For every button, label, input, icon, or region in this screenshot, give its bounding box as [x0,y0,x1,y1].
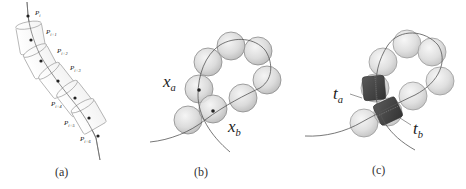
point-p-i3 [56,79,59,82]
point-p-i1 [29,38,32,41]
box-t-a [362,75,386,101]
point-x-b [211,109,215,113]
cylinder-chain-diagram [0,0,130,189]
panel-c-sphere-chain-boxes: ta tb (c) [300,0,466,189]
sphere-chain-diagram [150,0,300,189]
sphere [194,48,222,76]
sphere [217,32,245,60]
label-p-i: Pi [35,9,40,17]
sphere [229,84,257,112]
caption-b: (b) [194,165,208,180]
label-x-b: xb [228,117,241,137]
panel-b-sphere-chain: xa xb (b) [150,0,300,189]
caption-a: (a) [55,165,68,180]
point-p-i2 [39,59,42,62]
label-p-i4: Pi+4 [51,100,62,108]
label-p-i6: Pi+6 [80,135,91,143]
point-p-i6 [96,134,99,137]
label-p-i2: Pi+2 [57,47,68,55]
leader-t-a [350,94,362,98]
label-t-a: ta [333,84,343,104]
caption-c: (c) [372,163,385,178]
point-p-i5 [87,116,90,119]
label-p-i3: Pi+3 [70,64,81,72]
label-t-b: tb [413,119,423,139]
panel-a-cylinder-chain: Pi Pi+1 Pi+2 Pi+3 Pi+4 Pi+5 Pi+6 (a) [0,0,130,189]
sphere [244,37,272,65]
sphere [369,48,397,76]
leader-t-b [400,118,411,125]
point-x-a [197,88,201,92]
label-x-a: xa [163,72,176,92]
label-p-i1: Pi+1 [46,28,57,36]
sphere [426,67,454,95]
cylinder-segments [15,20,107,135]
sphere [393,30,421,58]
label-p-i5: Pi+5 [64,119,75,127]
sphere [253,66,281,94]
point-p-i [26,14,29,17]
point-p-i4 [73,96,76,99]
sphere [174,106,202,134]
sphere-box-diagram [300,0,466,189]
